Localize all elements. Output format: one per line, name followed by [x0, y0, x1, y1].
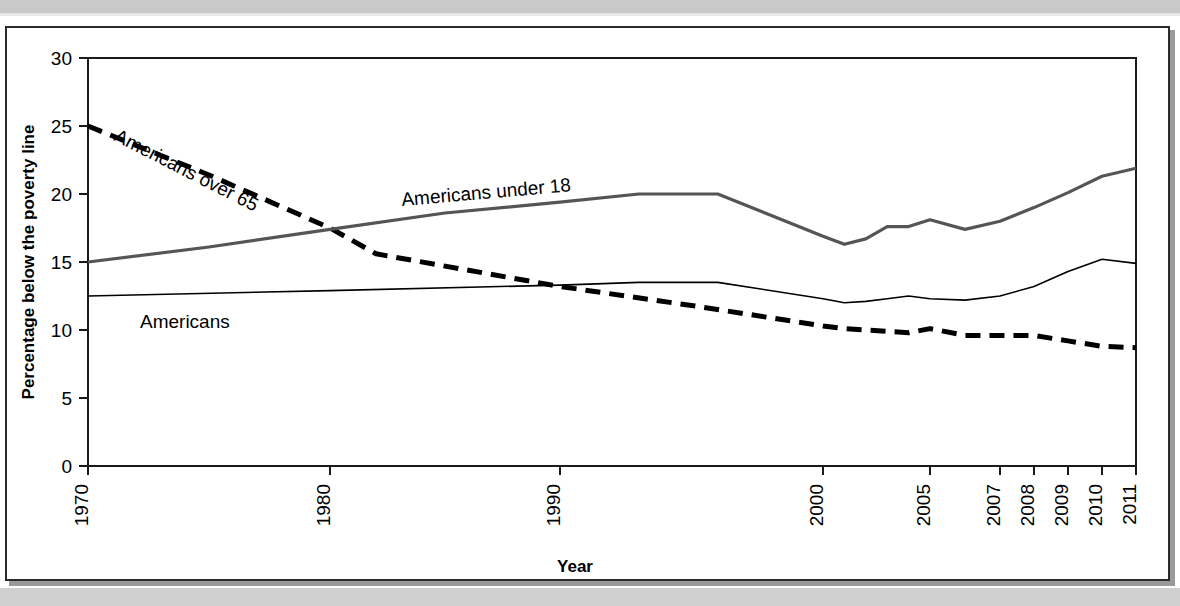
- plot-axes: [79, 58, 1136, 475]
- y-tick-label: 10: [51, 320, 72, 341]
- x-tick-label: 2010: [1085, 484, 1106, 526]
- plot-series: [88, 126, 1136, 348]
- plot-tick-labels: 0510152025301970198019902000200520072008…: [51, 48, 1140, 526]
- y-tick-label: 25: [51, 116, 72, 137]
- chart-page: 0510152025301970198019902000200520072008…: [0, 0, 1180, 606]
- x-axis-title: Year: [557, 557, 593, 576]
- y-axis-title: Percentage below the poverty line: [19, 125, 38, 400]
- series-label-americans-over-65: Americans over 65: [111, 125, 262, 216]
- y-tick-label: 15: [51, 252, 72, 273]
- y-tick-label: 5: [61, 388, 72, 409]
- x-tick-label: 2005: [913, 484, 934, 526]
- x-tick-label: 2009: [1051, 484, 1072, 526]
- series-label-americans: Americans: [140, 311, 230, 332]
- poverty-line-chart: 0510152025301970198019902000200520072008…: [0, 0, 1180, 606]
- x-tick-label: 2011: [1119, 484, 1140, 525]
- plot-frame: [88, 58, 1136, 466]
- x-tick-label: 1990: [543, 484, 564, 526]
- series-line-americans-over-65: [88, 126, 1136, 348]
- y-tick-label: 20: [51, 184, 72, 205]
- x-tick-label: 2008: [1017, 484, 1038, 526]
- x-tick-label: 2000: [806, 484, 827, 526]
- y-tick-label: 30: [51, 48, 72, 69]
- y-tick-label: 0: [61, 456, 72, 477]
- x-tick-label: 2007: [983, 484, 1004, 526]
- series-line-americans-under-18: [88, 168, 1136, 262]
- x-tick-label: 1980: [313, 484, 334, 526]
- x-tick-label: 1970: [71, 484, 92, 526]
